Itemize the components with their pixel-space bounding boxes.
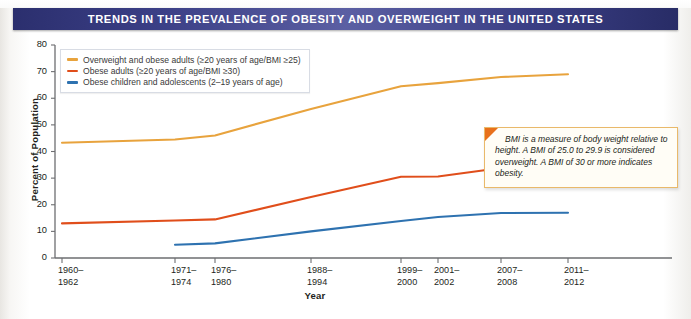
callout-corner-triangle-icon bbox=[485, 128, 498, 141]
x-tick-label-line2: 1994 bbox=[307, 277, 327, 287]
x-axis-title: Year bbox=[255, 290, 375, 301]
page-top-strip bbox=[0, 0, 691, 8]
y-tick-label: 80 bbox=[21, 39, 47, 49]
x-tick-label-line2: 2000 bbox=[397, 277, 417, 287]
y-tick-label: 30 bbox=[21, 172, 47, 182]
legend-swatch-icon bbox=[67, 81, 78, 84]
x-tick-label-line2: 2012 bbox=[564, 277, 584, 287]
legend-item: Overweight and obese adults (≥20 years o… bbox=[67, 54, 301, 65]
legend-item: Obese adults (≥20 years of age/BMI ≥30) bbox=[67, 65, 301, 76]
y-tick-label: 10 bbox=[21, 225, 47, 235]
chart-title-bar: TRENDS IN THE PREVALENCE OF OBESITY AND … bbox=[13, 8, 678, 30]
legend-label: Overweight and obese adults (≥20 years o… bbox=[83, 55, 301, 65]
chart-title: TRENDS IN THE PREVALENCE OF OBESITY AND … bbox=[88, 13, 604, 25]
legend-item: Obese children and adolescents (2–19 yea… bbox=[67, 77, 301, 88]
x-tick-label-line1: 2011– bbox=[564, 265, 589, 275]
callout-text: BMI is a measure of body weight relative… bbox=[495, 134, 669, 180]
x-tick-label-line1: 1960– bbox=[58, 265, 83, 275]
x-tick-label-line2: 2008 bbox=[497, 277, 517, 287]
x-tick-label-line1: 2007– bbox=[497, 265, 522, 275]
x-tick-label-line2: 1962 bbox=[58, 277, 78, 287]
y-tick-label: 40 bbox=[21, 146, 47, 156]
x-tick-label-line1: 1988– bbox=[307, 265, 332, 275]
x-tick-marks bbox=[62, 258, 568, 263]
x-tick-label-line2: 2002 bbox=[434, 277, 454, 287]
bmi-callout-box: BMI is a measure of body weight relative… bbox=[484, 127, 678, 188]
x-tick-label-line1: 1971– bbox=[171, 265, 196, 275]
legend-label: Obese children and adolescents (2–19 yea… bbox=[83, 77, 283, 87]
y-tick-label: 70 bbox=[21, 66, 47, 76]
y-tick-label: 0 bbox=[21, 252, 47, 262]
legend-swatch-icon bbox=[67, 70, 78, 73]
x-tick-label-line1: 1976– bbox=[211, 265, 236, 275]
x-tick-label: 2011–2012 bbox=[564, 265, 618, 288]
series-line bbox=[175, 213, 568, 245]
x-tick-label-line1: 1999– bbox=[397, 265, 422, 275]
legend-swatch-icon bbox=[67, 58, 78, 61]
x-tick-label: 1976–1980 bbox=[211, 265, 265, 288]
chart-area: Percent of Population Year 0102030405060… bbox=[0, 32, 691, 319]
x-tick-label: 1988–1994 bbox=[307, 265, 361, 288]
x-tick-label: 1960–1962 bbox=[58, 265, 112, 288]
x-tick-label-line1: 2001– bbox=[434, 265, 459, 275]
y-tick-label: 20 bbox=[21, 199, 47, 209]
x-tick-label: 2001–2002 bbox=[434, 265, 488, 288]
chart-legend: Overweight and obese adults (≥20 years o… bbox=[60, 49, 310, 93]
legend-label: Obese adults (≥20 years of age/BMI ≥30) bbox=[83, 66, 240, 76]
x-tick-label-line2: 1980 bbox=[211, 277, 231, 287]
x-tick-label-line2: 1974 bbox=[171, 277, 191, 287]
plot-wrapper: Percent of Population Year 0102030405060… bbox=[0, 32, 691, 319]
x-tick-label: 2007–2008 bbox=[497, 265, 551, 288]
y-tick-label: 60 bbox=[21, 92, 47, 102]
y-tick-label: 50 bbox=[21, 119, 47, 129]
